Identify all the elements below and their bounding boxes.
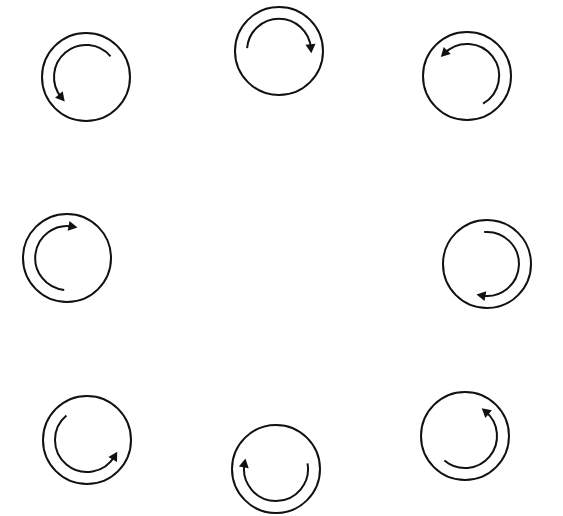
arrowhead-icon <box>68 221 78 231</box>
outer-circle <box>43 396 131 484</box>
arrowhead-icon <box>306 44 316 53</box>
circle-top-right <box>423 32 511 120</box>
circle-top-center <box>235 7 323 95</box>
circle-middle-right <box>443 220 531 308</box>
outer-circle <box>232 425 320 513</box>
arrowhead-icon <box>477 291 487 301</box>
rotation-arc <box>54 45 111 98</box>
rotation-arc <box>35 226 72 290</box>
rotation-arc <box>247 19 311 48</box>
circle-bottom-center <box>232 425 320 513</box>
outer-circle <box>42 33 130 121</box>
arrowhead-icon <box>55 91 65 101</box>
rotation-arc <box>444 412 497 469</box>
outer-circle <box>443 220 531 308</box>
circle-bottom-right <box>421 392 509 480</box>
circle-top-left <box>42 33 130 121</box>
circle-middle-left <box>23 214 111 302</box>
rotation-arc <box>55 416 115 472</box>
rotation-arc <box>481 232 519 296</box>
rotation-arc <box>244 463 308 501</box>
arrowhead-icon <box>239 459 249 469</box>
circle-bottom-left <box>43 396 131 484</box>
rotation-arc <box>444 44 499 104</box>
rotation-diagram <box>0 0 563 516</box>
outer-circle <box>23 214 111 302</box>
outer-circle <box>423 32 511 120</box>
outer-circle <box>421 392 509 480</box>
